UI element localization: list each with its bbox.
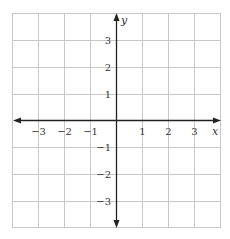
- y-tick-label: 1: [105, 89, 111, 100]
- arrow-down-icon: [114, 220, 120, 228]
- y-tick-label: −1: [96, 142, 111, 153]
- y-tick-label: −2: [96, 169, 111, 180]
- x-tick-label: 3: [191, 126, 197, 137]
- coordinate-plane: −3 −2 −1 1 2 3 3 2 1 −1 −2 −3 x y: [0, 0, 230, 239]
- arrow-right-icon: [213, 118, 221, 124]
- x-tick-label: −2: [57, 126, 72, 137]
- y-tick-label: 3: [105, 35, 111, 46]
- y-tick-label: 2: [105, 62, 111, 73]
- x-axis-label: x: [212, 125, 219, 138]
- y-tick-label: −3: [96, 196, 111, 207]
- y-axis-label: y: [120, 14, 128, 27]
- x-tick-label: −3: [31, 126, 46, 137]
- x-tick-label: 1: [139, 126, 145, 137]
- x-tick-label: 2: [165, 126, 171, 137]
- arrow-up-icon: [114, 13, 120, 21]
- x-tick-labels: −3 −2 −1 1 2 3: [31, 126, 198, 137]
- x-tick-label: −1: [83, 126, 98, 137]
- arrow-left-icon: [13, 118, 21, 124]
